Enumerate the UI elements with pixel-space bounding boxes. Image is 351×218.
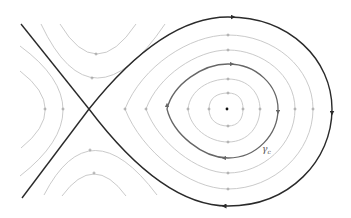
separatrix-lower-left-branch: [22, 109, 89, 198]
separatrix-upper-left-branch: [21, 24, 89, 109]
top-trajectory-inner: [41, 24, 165, 78]
left-trajectory-outer: [20, 71, 45, 148]
orbit-2: [188, 79, 260, 142]
hyperbolic-trajectories-bottom: [44, 151, 157, 197]
nested-closed-orbits: [125, 35, 313, 189]
phase-portrait-diagram: γc: [0, 0, 351, 218]
hyperbolic-trajectories-left: [20, 46, 63, 176]
gamma-c-label: γc: [262, 144, 271, 155]
orbit-4: [146, 50, 295, 173]
orbit-5: [125, 35, 313, 189]
hyperbolic-trajectories-top: [41, 24, 165, 78]
separatrix: [21, 17, 332, 206]
separatrix-homoclinic-loop: [89, 17, 332, 206]
left-trajectory-inner: [20, 46, 63, 176]
top-trajectory-outer: [60, 24, 136, 54]
center-point: [226, 108, 229, 111]
gamma-subscript: c: [267, 148, 271, 155]
bottom-trajectory-outer: [62, 174, 126, 196]
direction-arrows: [167, 17, 332, 206]
trajectory-ticks: [44, 34, 315, 191]
bottom-trajectory-inner: [44, 151, 157, 196]
